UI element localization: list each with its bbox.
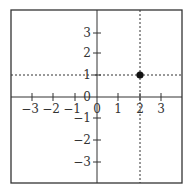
y-tick-label: −3 (73, 155, 91, 169)
coordinate-plane: −3 −2 −1 0 1 2 3 3 2 1 0 −1 −2 −3 (0, 0, 184, 193)
x-tick-label: −2 (42, 102, 60, 116)
y-tick-label: 3 (83, 26, 91, 40)
x-tick-label: 0 (93, 102, 101, 116)
data-point (136, 71, 143, 78)
x-tick-label: 2 (136, 102, 144, 116)
x-tick-labels: −3 −2 −1 0 1 2 3 (21, 102, 165, 116)
y-tick-label: −1 (73, 111, 91, 125)
x-tick-label: 1 (114, 102, 122, 116)
x-tick-label: 3 (157, 102, 165, 116)
y-tick-label: −2 (73, 133, 91, 147)
y-tick-label: 0 (83, 90, 91, 104)
y-tick-label: 2 (83, 46, 91, 60)
y-tick-label: 1 (83, 68, 91, 82)
x-tick-label: −3 (21, 102, 39, 116)
